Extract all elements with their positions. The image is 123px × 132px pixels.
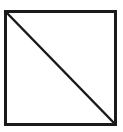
- diagram-canvas: [0, 0, 123, 132]
